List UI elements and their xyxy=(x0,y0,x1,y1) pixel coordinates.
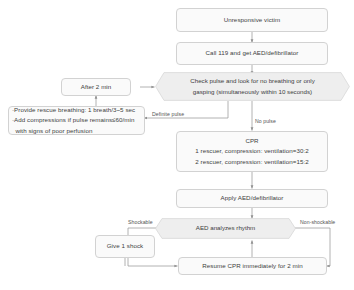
node-call-119-label: Call 119 and get AED/defibrillator xyxy=(206,48,299,58)
node-rescue-breathing-line2: ·Add compressions if pulse remains≤60/mi… xyxy=(12,115,135,125)
flowchart-canvas: Unresponsive victim Call 119 and get AED… xyxy=(0,0,354,290)
node-resume-cpr[interactable]: Resume CPR immediately for 2 min xyxy=(178,257,327,275)
node-apply-aed-label: Apply AED/defibrillator xyxy=(221,193,284,203)
node-aed-analyzes-text: AED analyzes rhythm xyxy=(155,218,296,239)
node-check-pulse[interactable]: Check pulse and look for no breathing or… xyxy=(155,72,350,101)
node-check-pulse-line2: gasping (simultaneously within 10 second… xyxy=(193,87,312,98)
edge-label-no-pulse: No pulse xyxy=(255,118,276,124)
node-resume-cpr-label: Resume CPR immediately for 2 min xyxy=(202,261,302,271)
node-rescue-breathing[interactable]: ·Provide rescue breathing: 1 breath/3~5 … xyxy=(8,106,145,135)
node-aed-analyzes-label: AED analyzes rhythm xyxy=(196,223,256,234)
node-rescue-breathing-line3: with signs of poor perfusion xyxy=(12,126,92,136)
edge-label-definite-pulse: Definite pulse xyxy=(152,111,184,117)
node-unresponsive-victim-label: Unresponsive victim xyxy=(224,15,281,25)
edge-label-shockable: Shockable xyxy=(128,219,153,225)
node-cpr-line2: 1 rescuer, compression: ventilation=30:2 xyxy=(195,146,308,156)
node-check-pulse-line1: Check pulse and look for no breathing or… xyxy=(190,76,315,87)
node-cpr-line1: CPR xyxy=(245,136,258,146)
edge-label-non-shockable: Non-shockable xyxy=(300,219,335,225)
node-give-1-shock[interactable]: Give 1 shock xyxy=(95,235,155,258)
node-check-pulse-text: Check pulse and look for no breathing or… xyxy=(155,72,350,101)
node-call-119[interactable]: Call 119 and get AED/defibrillator xyxy=(176,42,328,65)
node-apply-aed[interactable]: Apply AED/defibrillator xyxy=(176,189,328,208)
node-cpr-line3: 2 rescuer, compression: ventilation=15:2 xyxy=(195,157,308,167)
node-rescue-breathing-line1: ·Provide rescue breathing: 1 breath/3~5 … xyxy=(12,105,135,115)
node-give-1-shock-label: Give 1 shock xyxy=(107,241,144,251)
node-after-2-min-label: After 2 min xyxy=(81,82,112,92)
node-after-2-min[interactable]: After 2 min xyxy=(61,78,131,96)
node-aed-analyzes-rhythm[interactable]: AED analyzes rhythm xyxy=(155,218,296,239)
node-unresponsive-victim[interactable]: Unresponsive victim xyxy=(176,8,328,32)
node-cpr[interactable]: CPR 1 rescuer, compression: ventilation=… xyxy=(176,131,328,172)
